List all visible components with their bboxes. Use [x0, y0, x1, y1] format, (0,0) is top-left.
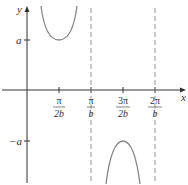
- svg-text:2b: 2b: [118, 108, 128, 119]
- x-axis-label: x: [180, 91, 186, 103]
- lower-branch-curve: [106, 141, 140, 184]
- svg-text:π: π: [88, 95, 93, 106]
- secant-graph: y x a −a π 2b π b 3π 2b 2π b: [0, 0, 188, 185]
- x-tick-label-2: π b: [87, 95, 95, 119]
- svg-text:2π: 2π: [150, 95, 160, 106]
- y-tick-label-a: a: [16, 34, 22, 46]
- x-tick-label-1: π 2b: [53, 95, 65, 119]
- x-tick-label-4: 2π b: [148, 95, 162, 119]
- svg-text:b: b: [89, 108, 94, 119]
- y-axis-label: y: [16, 3, 22, 15]
- x-tick-label-3: 3π 2b: [116, 95, 130, 119]
- y-tick-label-neg-a: −a: [9, 135, 22, 147]
- upper-branch-curve: [41, 6, 77, 40]
- svg-text:b: b: [153, 108, 158, 119]
- svg-text:2b: 2b: [54, 108, 64, 119]
- svg-text:3π: 3π: [118, 95, 128, 106]
- y-axis-arrow-icon: [25, 6, 30, 12]
- svg-text:π: π: [56, 95, 61, 106]
